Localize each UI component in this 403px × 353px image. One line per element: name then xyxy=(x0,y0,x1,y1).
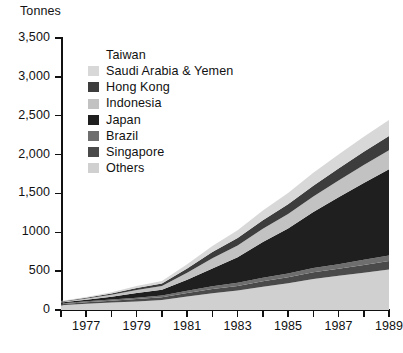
x-axis-tick-label: 1985 xyxy=(274,319,302,333)
x-axis-tick-label: 1977 xyxy=(72,319,100,333)
x-axis-tick xyxy=(111,310,113,317)
x-axis-tick xyxy=(85,310,87,317)
legend-swatch-icon xyxy=(88,50,99,60)
y-axis-tick-label: 500 xyxy=(2,263,50,277)
legend-item-singapore[interactable]: Singapore xyxy=(88,144,233,160)
y-axis-labels: 3,5003,0002,5002,0001,50010005000 xyxy=(0,0,50,353)
legend-swatch-icon xyxy=(88,163,99,173)
legend-swatch-icon xyxy=(88,115,99,125)
x-axis-tick xyxy=(388,310,390,317)
y-axis-tick-label: 1000 xyxy=(2,224,50,238)
x-axis-tick xyxy=(338,310,340,317)
y-axis-tick-label: 3,000 xyxy=(2,69,50,83)
legend-swatch-icon xyxy=(88,82,99,92)
x-axis-tick xyxy=(186,310,188,317)
legend-item-label: Saudi Arabia & Yemen xyxy=(106,65,233,78)
legend-item-label: Brazil xyxy=(106,130,138,143)
legend-swatch-icon xyxy=(88,99,99,109)
x-axis-tick xyxy=(262,310,264,317)
legend-item-saudi-arabia-yemen[interactable]: Saudi Arabia & Yemen xyxy=(88,63,233,79)
y-axis-tick-label: 2,500 xyxy=(2,108,50,122)
legend-item-label: Others xyxy=(106,162,144,175)
x-axis-tick xyxy=(212,310,214,317)
legend-item-label: Taiwan xyxy=(106,49,146,62)
x-axis-tick xyxy=(136,310,138,317)
x-axis-tick xyxy=(161,310,163,317)
x-axis-tick xyxy=(60,310,62,317)
footer-artifact-text xyxy=(0,345,402,353)
x-axis-tick xyxy=(287,310,289,317)
legend-item-brazil[interactable]: Brazil xyxy=(88,128,233,144)
legend-item-label: Hong Kong xyxy=(106,81,170,94)
y-axis-tick-label: 0 xyxy=(2,302,50,316)
x-axis-tick-label: 1983 xyxy=(224,319,252,333)
legend-item-taiwan[interactable]: Taiwan xyxy=(88,47,233,63)
x-axis-tick xyxy=(313,310,315,317)
legend-item-label: Indonesia xyxy=(106,97,162,110)
x-axis-tick xyxy=(363,310,365,317)
x-axis-tick-label: 1979 xyxy=(123,319,151,333)
x-axis-tick-label: 1987 xyxy=(324,319,352,333)
legend-item-indonesia[interactable]: Indonesia xyxy=(88,96,233,112)
y-axis-tick-label: 2,000 xyxy=(2,147,50,161)
legend-swatch-icon xyxy=(88,147,99,157)
chart-legend: TaiwanSaudi Arabia & YemenHong KongIndon… xyxy=(88,47,233,177)
legend-swatch-icon xyxy=(88,131,99,141)
x-axis-tick-label: 1981 xyxy=(173,319,201,333)
legend-item-hong-kong[interactable]: Hong Kong xyxy=(88,79,233,95)
legend-item-others[interactable]: Others xyxy=(88,160,233,176)
legend-item-label: Japan xyxy=(106,114,141,127)
legend-item-label: Singapore xyxy=(106,146,164,159)
legend-swatch-icon xyxy=(88,66,99,76)
legend-item-japan[interactable]: Japan xyxy=(88,112,233,128)
y-axis-tick-label: 1,500 xyxy=(2,185,50,199)
y-axis-tick-label: 3,500 xyxy=(2,30,50,44)
x-axis-tick-label: 1989 xyxy=(375,319,403,333)
x-axis-tick xyxy=(237,310,239,317)
